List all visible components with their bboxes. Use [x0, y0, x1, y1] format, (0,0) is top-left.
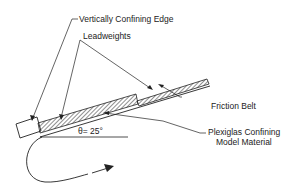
label-angle-theta: θ= 25° [78, 126, 103, 136]
label-leadweights: Leadweights [83, 31, 131, 41]
label-vertically-confining-edge: Vertically Confining Edge [79, 14, 174, 24]
label-friction-belt: Friction Belt [211, 101, 256, 111]
label-plexiglas-line1: Plexiglas Confining [208, 127, 280, 137]
apparatus-diagram [0, 0, 300, 190]
label-plexiglas-line2: Model Material [216, 137, 272, 147]
arrow-head-icon [104, 164, 114, 172]
vertical-confining-edge-block [16, 117, 41, 138]
plexiglas-plate [40, 86, 210, 137]
rotation-arrow [27, 137, 114, 182]
